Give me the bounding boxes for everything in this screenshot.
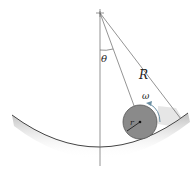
radius-R-line (100, 13, 181, 119)
omega-label: ω (142, 91, 150, 101)
theta-arc (100, 49, 113, 50)
omega-arrowhead-icon (146, 101, 152, 106)
R-label: R (138, 68, 148, 82)
theta-label: θ (101, 53, 107, 64)
line-to-disk-center (100, 13, 140, 122)
pendulum-disk-diagram: θ R ω r (0, 0, 196, 178)
